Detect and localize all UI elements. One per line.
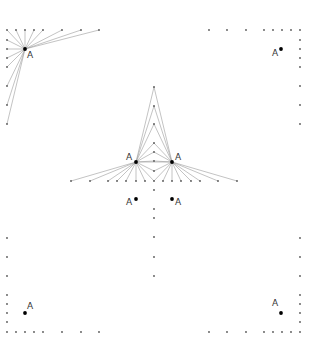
connector-line [154, 143, 172, 162]
grid-dot [180, 180, 182, 182]
grid-dot [98, 331, 100, 333]
grid-dot [299, 29, 301, 31]
connector-line [25, 30, 99, 49]
grid-dot [272, 331, 274, 333]
connector-line [154, 162, 172, 171]
connector-line [136, 162, 145, 181]
grid-dot [80, 29, 82, 31]
grid-dot [135, 180, 137, 182]
grid-dot [281, 29, 283, 31]
grid-dot [162, 180, 164, 182]
grid-dot [6, 57, 8, 59]
grid-dot [6, 29, 8, 31]
grid-dot [153, 208, 155, 210]
connector-lines [7, 30, 237, 181]
anchor-label: A [27, 50, 34, 60]
grid-dot [6, 123, 8, 125]
grid-dot [208, 331, 210, 333]
grid-dot [6, 294, 8, 296]
connector-line [90, 162, 136, 181]
grid-dot [6, 237, 8, 239]
grid-dot [299, 237, 301, 239]
grid-dot [299, 123, 301, 125]
grid-dot [98, 29, 100, 31]
grid-dot [153, 275, 155, 277]
grid-dot [6, 303, 8, 305]
grid-dot [89, 180, 91, 182]
grid-dot [245, 29, 247, 31]
connector-line [7, 40, 25, 49]
anchor-label: A [272, 48, 279, 58]
connector-line [172, 162, 218, 181]
grid-dot [153, 256, 155, 258]
grid-dot [299, 66, 301, 68]
grid-dot [236, 180, 238, 182]
connector-line [154, 162, 172, 181]
grid-dot [153, 86, 155, 88]
connector-line [136, 162, 154, 171]
grid-dot [61, 331, 63, 333]
grid-dot [299, 275, 301, 277]
anchor-points: AAAAAAAA [23, 47, 283, 315]
anchor-label: A [27, 301, 34, 311]
grid-dot [226, 29, 228, 31]
grid-dot [299, 39, 301, 41]
grid-dot [153, 123, 155, 125]
grid-dot [299, 321, 301, 323]
anchor-label: A [175, 197, 182, 207]
grid-dot [299, 294, 301, 296]
grid-dot [125, 180, 127, 182]
grid-dot [299, 303, 301, 305]
grid-dot [263, 331, 265, 333]
grid-dot [171, 180, 173, 182]
connector-line [136, 87, 154, 162]
grid-dot [24, 29, 26, 31]
anchor-dot [279, 311, 283, 315]
grid-dot [153, 217, 155, 219]
connector-line [154, 124, 172, 162]
grid-dot [226, 331, 228, 333]
grid-dot [70, 180, 72, 182]
grid-dot [153, 180, 155, 182]
grid-dot [199, 180, 201, 182]
anchor-label: A [126, 197, 133, 207]
grid-dot [299, 85, 301, 87]
grid-dot [299, 312, 301, 314]
connector-line [126, 162, 136, 181]
grid-dot [153, 142, 155, 144]
connector-line [7, 49, 25, 86]
grid-dots [6, 29, 301, 333]
grid-dot [153, 151, 155, 153]
anchor-dot [134, 197, 138, 201]
grid-dot [153, 160, 155, 162]
anchor-dot [279, 47, 283, 51]
connector-line [136, 143, 154, 162]
grid-dot [15, 331, 17, 333]
grid-dot [80, 331, 82, 333]
anchor-label: A [272, 298, 279, 308]
grid-dot [6, 48, 8, 50]
grid-dot [208, 29, 210, 31]
grid-dot [153, 189, 155, 191]
grid-dot [15, 29, 17, 31]
grid-dot [42, 29, 44, 31]
grid-dot [6, 312, 8, 314]
anchor-dot [23, 311, 27, 315]
grid-dot [299, 256, 301, 258]
anchor-dot [170, 197, 174, 201]
connector-line [7, 49, 25, 124]
grid-dot [299, 48, 301, 50]
anchor-dot [134, 160, 138, 164]
grid-dot [263, 29, 265, 31]
connector-line [108, 162, 136, 181]
grid-dot [299, 331, 301, 333]
connector-line [154, 87, 172, 162]
connector-line [25, 30, 81, 49]
grid-dot [6, 331, 8, 333]
grid-dot [116, 180, 118, 182]
grid-dot [6, 275, 8, 277]
grid-dot [33, 29, 35, 31]
connector-line [7, 49, 25, 105]
diagram-canvas: AAAAAAAA [0, 0, 315, 350]
connector-line [136, 162, 154, 181]
